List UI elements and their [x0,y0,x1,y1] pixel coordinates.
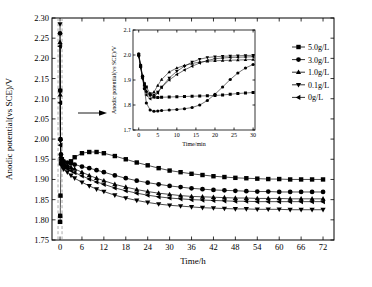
y-tick-label: 2.15 [34,74,49,84]
data-point-marker [206,94,209,97]
chart-figure: 0612182430364248546066721.751.801.851.90… [0,0,372,287]
main-y-axis-label: Anodic potential(vs SCE)/V [4,78,14,180]
data-point-marker [87,166,92,171]
data-point-marker [189,172,193,176]
x-tick-label: 36 [187,242,196,252]
data-point-marker [251,63,254,66]
legend-marker-icon [296,95,301,100]
legend-item-0-1g-l[interactable]: 0.1g/L [292,81,329,90]
data-point-marker [145,101,148,104]
data-point-marker [211,206,216,211]
data-point-marker [221,94,224,97]
x-tick-label: 25 [231,132,237,138]
data-point-marker [183,107,186,110]
x-tick-label: 72 [319,242,328,252]
data-point-marker [102,151,106,155]
data-point-marker [123,176,128,181]
data-point-marker [236,92,239,95]
data-point-marker [113,154,117,158]
y-tick-label: 1.9 [124,77,132,83]
y-tick-label: 1.75 [34,235,49,245]
data-point-marker [229,93,232,96]
data-point-marker [299,190,304,195]
data-point-marker [321,190,326,195]
data-point-marker [211,188,216,193]
data-point-marker [299,177,303,181]
data-point-marker [211,174,215,178]
data-point-marker [72,176,77,181]
data-point-marker [213,93,216,96]
y-tick-label: 2.1 [124,27,132,33]
x-tick-label: 5 [156,132,159,138]
x-tick-label: 54 [253,242,262,252]
data-point-marker [266,189,271,194]
data-point-marker [200,187,205,192]
data-point-marker [149,108,152,111]
data-point-marker [233,207,238,212]
y-tick-label: 2.05 [34,114,49,124]
x-tick-label: 48 [231,242,240,252]
data-point-marker [277,207,282,212]
data-point-marker [252,91,255,94]
legend-label: 0.1g/L [308,81,329,90]
data-point-marker [244,189,249,194]
data-point-marker [152,110,155,113]
data-point-marker [79,180,84,185]
legend-marker-icon [296,69,301,74]
anodic-potential-chart: 0612182430364248546066721.751.801.851.90… [0,0,372,287]
data-point-marker [168,108,171,111]
legend-label: 3.0g/L [308,56,329,65]
data-point-marker [156,182,161,187]
legend-marker-icon [296,45,300,49]
data-point-marker [244,92,247,95]
y-tick-label: 2.00 [34,134,49,144]
data-point-marker [167,184,172,189]
data-point-marker [58,193,62,197]
data-point-marker [277,190,282,195]
data-point-marker [266,177,270,181]
x-tick-label: 18 [122,242,131,252]
data-point-marker [244,207,249,212]
arrow-head-icon [99,110,107,116]
data-point-marker [189,186,194,191]
data-point-marker [288,208,293,213]
data-point-marker [233,176,237,180]
data-point-marker [321,177,325,181]
legend: 5.0g/L3.0g/L1.0g/L0.1g/L0g/L [292,43,329,102]
data-point-marker [101,170,106,175]
legend-marker-icon [296,57,301,62]
y-tick-label: 2.20 [34,53,49,63]
y-tick-label: 1.90 [34,174,49,184]
data-point-marker [255,189,260,194]
data-point-marker [94,168,99,173]
data-point-marker [310,177,314,181]
data-point-marker [191,95,194,98]
data-point-marker [222,188,227,193]
data-point-marker [299,208,304,213]
data-point-marker [221,85,224,88]
data-point-marker [190,106,193,109]
x-tick-label: 24 [143,242,152,252]
data-point-marker [160,96,163,99]
legend-item-3-0g-l[interactable]: 3.0g/L [292,56,329,65]
data-point-marker [229,78,232,81]
legend-item-0g-l[interactable]: 0g/L [292,93,323,102]
y-tick-label: 1.80 [34,215,49,225]
data-point-marker [200,173,204,177]
x-tick-label: 0 [137,132,140,138]
data-point-marker [233,188,238,193]
data-point-marker [124,157,128,161]
data-point-marker [288,177,292,181]
legend-item-5-0g-l[interactable]: 5.0g/L [292,43,329,52]
x-tick-label: 0 [58,242,62,252]
data-point-marker [145,180,150,185]
data-point-marker [168,96,171,99]
x-tick-label: 15 [193,132,199,138]
legend-label: 0g/L [308,93,323,102]
legend-item-1-0g-l[interactable]: 1.0g/L [292,68,329,77]
data-point-marker [94,150,98,154]
main-x-axis-label: Time/h [180,256,206,266]
data-point-marker [72,162,77,167]
y-tick-label: 2.10 [34,94,49,104]
legend-label: 1.0g/L [308,68,329,77]
